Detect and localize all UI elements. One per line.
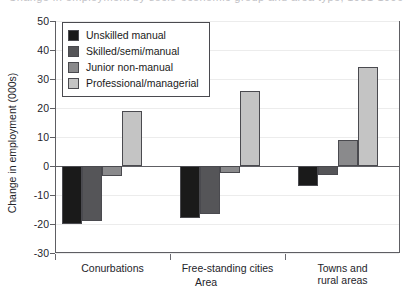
legend-item-label: Skilled/semi/manual (86, 45, 179, 57)
gridline (56, 253, 399, 254)
bar (82, 166, 102, 221)
legend-item: Skilled/semi/manual (68, 43, 203, 59)
bar (358, 67, 378, 166)
y-tick (50, 224, 55, 225)
bar-chart: Change in employment (000s) -30-20-10010… (0, 0, 412, 299)
bar (220, 166, 240, 173)
y-tick-label: 40 (15, 44, 49, 56)
legend-item-label: Unskilled manual (86, 29, 166, 41)
y-tick-label: 30 (15, 73, 49, 85)
gridline (56, 195, 399, 196)
x-axis-title: Area (0, 276, 412, 288)
bar (338, 140, 358, 166)
x-axis-separator (55, 254, 56, 260)
bar (122, 111, 142, 166)
y-tick-label: 0 (15, 160, 49, 172)
legend-item: Junior non-manual (68, 59, 203, 75)
y-tick-label: -10 (15, 189, 49, 201)
legend-item-label: Professional/managerial (86, 77, 199, 89)
y-tick-label: -30 (15, 247, 49, 259)
legend-swatch-icon (68, 78, 79, 89)
y-tick (50, 21, 55, 22)
bar (200, 166, 220, 214)
legend-swatch-icon (68, 62, 79, 73)
y-tick (50, 195, 55, 196)
legend-swatch-icon (68, 46, 79, 57)
legend-item: Unskilled manual (68, 27, 203, 43)
legend-item-label: Junior non-manual (86, 61, 173, 73)
x-axis-separator (170, 254, 171, 260)
x-axis-separator (285, 254, 286, 260)
x-category-label-line: Free-standing cities (170, 262, 285, 274)
y-tick-label: -20 (15, 218, 49, 230)
y-tick (50, 108, 55, 109)
bar (298, 166, 318, 186)
legend-swatch-icon (68, 30, 79, 41)
y-tick (50, 137, 55, 138)
y-tick (50, 79, 55, 80)
y-tick (50, 166, 55, 167)
bar (240, 91, 260, 166)
gridline (56, 224, 399, 225)
bar (318, 166, 338, 175)
y-tick (50, 50, 55, 51)
bar (180, 166, 200, 218)
legend-item: Professional/managerial (68, 75, 203, 91)
y-tick-label: 50 (15, 15, 49, 27)
y-tick-label: 20 (15, 102, 49, 114)
x-category-label: Conurbations (55, 262, 170, 274)
x-category-label: Free-standing cities (170, 262, 285, 274)
bar (62, 166, 82, 224)
gridline (56, 108, 399, 109)
bar (102, 166, 122, 176)
y-tick-label: 10 (15, 131, 49, 143)
x-category-label-line: Towns and (285, 262, 400, 274)
legend: Unskilled manualSkilled/semi/manualJunio… (62, 22, 210, 97)
gridline (56, 137, 399, 138)
x-category-label-line: Conurbations (55, 262, 170, 274)
